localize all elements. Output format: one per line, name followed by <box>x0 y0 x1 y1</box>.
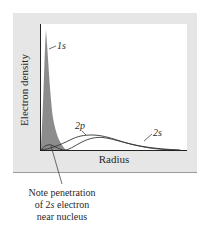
x-axis-label: Radius <box>99 153 130 165</box>
leader-2s <box>144 134 152 141</box>
note-text: electron <box>55 199 90 210</box>
leader-2p <box>82 131 86 135</box>
label-2s: 2s <box>153 127 162 138</box>
leader-1s <box>49 46 56 49</box>
y-axis-label: Electron density <box>18 54 30 126</box>
penetration-note: Note penetration of 2s electron near nuc… <box>29 187 96 223</box>
note-line-3: near nucleus <box>29 211 96 223</box>
note-text: of 2 <box>35 199 51 210</box>
leader-note <box>51 146 62 184</box>
note-line-2: of 2s electron <box>29 199 96 211</box>
label-1s: 1s <box>57 40 66 51</box>
label-2p: 2p <box>75 120 85 131</box>
note-line-1: Note penetration <box>29 187 96 199</box>
